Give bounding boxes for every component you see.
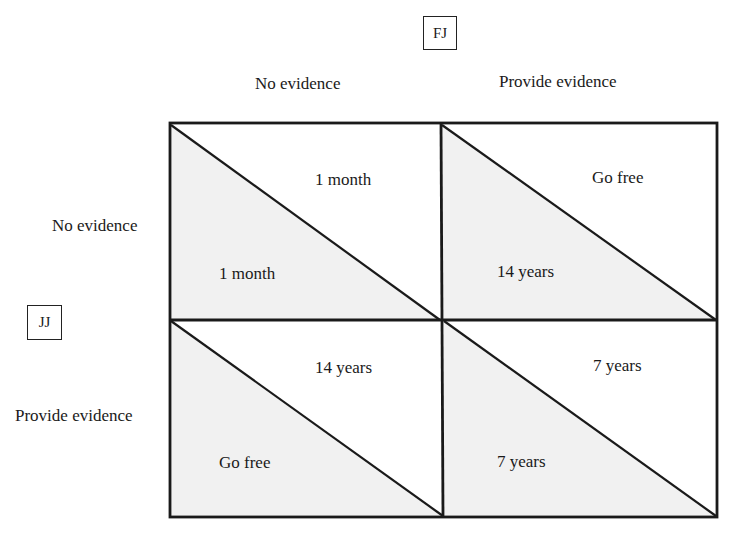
cell-np-jj-payoff: 14 years (497, 262, 554, 282)
row-player-label: JJ (27, 305, 62, 340)
row-strategy-provide-evidence: Provide evidence (15, 406, 133, 426)
cell-pp-jj-payoff: 7 years (497, 452, 546, 472)
row-strategy-no-evidence: No evidence (52, 216, 137, 236)
cell-pn-jj-payoff: Go free (219, 453, 270, 473)
cell-pp-fj-payoff: 7 years (593, 356, 642, 376)
column-strategy-provide-evidence: Provide evidence (499, 72, 617, 92)
cell-np-fj-payoff: Go free (592, 168, 643, 188)
cell-pn-fj-payoff: 14 years (315, 358, 372, 378)
column-player-label: FJ (423, 16, 457, 50)
cell-nn-fj-payoff: 1 month (315, 170, 371, 190)
cell-nn-jj-payoff: 1 month (219, 264, 275, 284)
payoff-matrix-grid (0, 0, 739, 538)
column-strategy-no-evidence: No evidence (255, 74, 340, 94)
